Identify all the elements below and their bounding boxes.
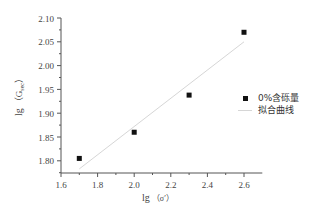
y-axis-label: lg（Gsec）: [13, 74, 25, 116]
plot-area: [77, 30, 247, 169]
data-point: [187, 93, 192, 98]
y-tick-label: 1.80: [38, 156, 54, 166]
y-tick-label: 2.10: [38, 14, 54, 24]
x-tick-label: 1.8: [92, 180, 104, 190]
data-point: [132, 130, 137, 135]
y-tick-label: 1.85: [38, 133, 54, 143]
y-tick-label: 2.00: [38, 61, 54, 71]
legend: 0%含砾量 拟合曲线: [236, 92, 299, 116]
fit-line: [79, 42, 244, 169]
axes: 1.801.851.901.952.002.052.101.61.82.02.2…: [38, 14, 262, 191]
legend-label: 拟合曲线: [258, 104, 294, 116]
x-tick-label: 1.6: [55, 180, 67, 190]
data-point: [242, 30, 247, 35]
y-tick-label: 2.05: [38, 37, 54, 47]
y-tick-label: 1.95: [38, 85, 54, 95]
legend-item-data: 0%含砾量: [236, 92, 299, 104]
data-point: [77, 156, 82, 161]
x-tick-label: 2.0: [129, 180, 141, 190]
line-marker-icon: [236, 110, 254, 111]
square-marker-icon: [236, 96, 254, 101]
x-axis-label: lg（σ′）: [142, 192, 174, 203]
legend-label: 0%含砾量: [258, 92, 299, 104]
x-tick-label: 2.2: [165, 180, 176, 190]
y-tick-label: 1.90: [38, 109, 54, 119]
legend-item-fit: 拟合曲线: [236, 104, 299, 116]
x-tick-label: 2.4: [202, 180, 214, 190]
x-tick-label: 2.6: [238, 180, 250, 190]
